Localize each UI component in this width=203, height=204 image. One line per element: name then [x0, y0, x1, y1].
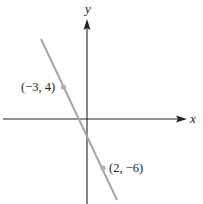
y-axis: [84, 19, 91, 204]
y-axis-label: y: [83, 1, 91, 16]
x-axis-label: x: [189, 111, 196, 126]
point-label-neg3-4: (−3, 4): [21, 80, 55, 94]
point-label-2-neg6: (2, −6): [109, 161, 143, 175]
x-axis: [3, 116, 187, 123]
point-marker-2-neg6: [100, 165, 105, 170]
coordinate-plane: y x (−3, 4) (2, −6): [0, 0, 203, 204]
point-marker-neg3-4: [61, 84, 66, 89]
